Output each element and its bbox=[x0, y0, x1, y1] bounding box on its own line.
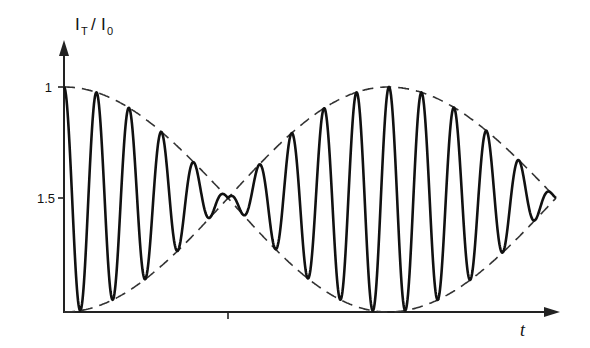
svg-text:T: T bbox=[81, 25, 88, 37]
y-axis-label: I T / I 0 bbox=[75, 15, 113, 37]
y-axis-arrow-icon bbox=[59, 40, 69, 56]
y-tick-label-1-5: 1.5 bbox=[37, 191, 55, 206]
svg-text:/: / bbox=[91, 15, 96, 34]
svg-text:I: I bbox=[101, 15, 106, 34]
svg-text:I: I bbox=[75, 15, 80, 34]
y-tick-label-1: 1 bbox=[45, 80, 52, 95]
x-axis-arrow-icon bbox=[544, 307, 560, 317]
beat-intensity-diagram: 1 1.5 I T / I 0 t bbox=[0, 0, 590, 348]
oscillation-curve bbox=[64, 87, 556, 311]
x-axis-label: t bbox=[520, 320, 526, 340]
svg-text:0: 0 bbox=[107, 25, 113, 37]
